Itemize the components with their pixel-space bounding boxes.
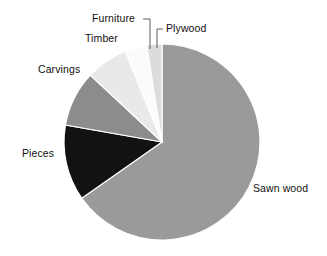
pie-label-pieces: Pieces <box>22 148 54 159</box>
pie-chart: Furniture Plywood Timber Carvings Pieces… <box>0 0 327 256</box>
pie-label-plywood: Plywood <box>166 23 206 34</box>
pie-chart-graphic <box>0 0 327 256</box>
pie-label-furniture: Furniture <box>92 13 135 24</box>
pie-label-sawn-wood: Sawn wood <box>253 183 308 194</box>
pie-label-timber: Timber <box>85 33 118 44</box>
pie-label-carvings: Carvings <box>38 64 80 75</box>
